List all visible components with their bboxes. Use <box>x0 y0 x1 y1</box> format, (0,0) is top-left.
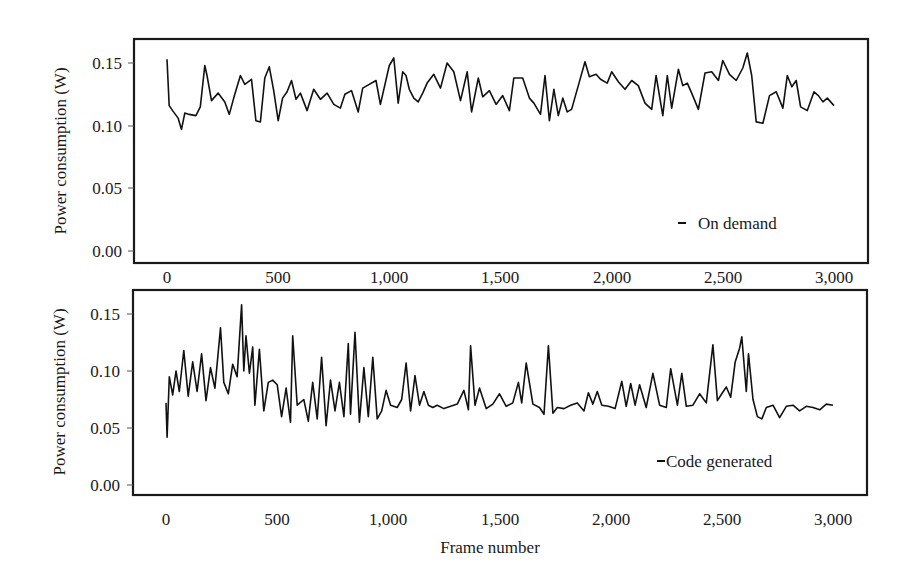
legend-label: Code generated <box>666 452 773 471</box>
legend-label: On demand <box>698 214 777 233</box>
x-axis-label: Frame number <box>440 538 540 557</box>
x-tick-label: 500 <box>265 268 291 287</box>
legend-code-generated: Code generated <box>657 452 773 471</box>
x-axis: 0 500 1,000 1,500 2,000 2,500 3,000 Fram… <box>162 510 852 557</box>
x-tick-label: 500 <box>264 510 290 529</box>
legend-on-demand: On demand <box>678 214 777 233</box>
x-axis: 0 500 1,000 1,500 2,000 2,500 3,000 <box>163 268 853 287</box>
on-demand-line <box>167 53 834 129</box>
y-tick-label: 0.00 <box>92 242 122 261</box>
x-tick-label: 2,500 <box>704 268 742 287</box>
y-axis-label: Power consumption (W) <box>50 308 69 475</box>
y-tick-label: 0.05 <box>92 179 122 198</box>
x-tick-label: 1,500 <box>481 268 519 287</box>
x-tick-label: 0 <box>163 268 172 287</box>
x-tick-label: 3,000 <box>814 510 852 529</box>
y-tick-label: 0.00 <box>90 476 120 495</box>
y-axis: 0.15 0.10 0.05 0.00 Power consumption (W… <box>50 305 133 495</box>
panel-on-demand: 0.15 0.10 0.05 0.00 Power consumption (W… <box>51 39 868 287</box>
y-tick-label: 0.15 <box>90 305 120 324</box>
code-generated-line <box>166 305 833 437</box>
x-tick-label: 0 <box>162 510 171 529</box>
y-axis: 0.15 0.10 0.05 0.00 Power consumption (W… <box>51 54 134 261</box>
x-tick-label: 1,000 <box>369 510 407 529</box>
x-tick-label: 1,500 <box>481 510 519 529</box>
power-consumption-figure: 0.15 0.10 0.05 0.00 Power consumption (W… <box>0 0 912 577</box>
x-tick-label: 1,000 <box>370 268 408 287</box>
x-tick-label: 3,000 <box>815 268 853 287</box>
panel-code-generated: 0.15 0.10 0.05 0.00 Power consumption (W… <box>50 290 867 557</box>
y-tick-label: 0.15 <box>92 54 122 73</box>
y-axis-label: Power consumption (W) <box>51 67 70 234</box>
y-tick-label: 0.10 <box>92 117 122 136</box>
x-tick-label: 2,500 <box>703 510 741 529</box>
x-tick-label: 2,000 <box>592 510 630 529</box>
y-tick-label: 0.05 <box>90 419 120 438</box>
y-tick-label: 0.10 <box>90 362 120 381</box>
x-tick-label: 2,000 <box>593 268 631 287</box>
